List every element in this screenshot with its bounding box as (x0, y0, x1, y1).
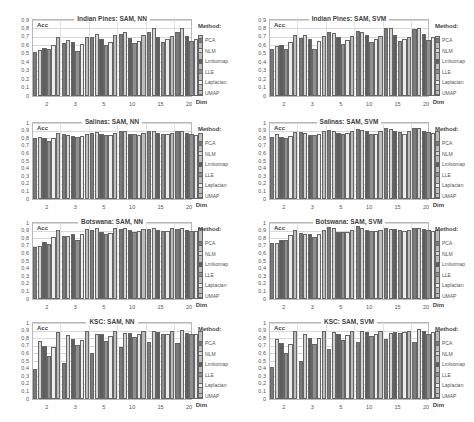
legend-swatch-icon (198, 372, 203, 377)
y-tick-label: 0,4 (3, 265, 29, 271)
legend-swatch-icon (198, 293, 203, 298)
legend-label: PCA (205, 240, 215, 246)
legend-label: UMAP (205, 293, 219, 299)
legend-label: Laplacian (442, 282, 463, 288)
legend: Method:PCANLMLmlsomapLLELaplacianUMAP (198, 23, 238, 98)
legend-label: NLM (442, 351, 453, 357)
bar-group: 3 (298, 123, 326, 199)
legend-label: UMAP (205, 90, 219, 96)
legend: Method:PCANLMLmlsomapLLELaplacianUMAP (435, 23, 474, 98)
legend: Method:PCANLMLmlsomapLLELaplacianUMAP (198, 126, 238, 201)
legend-item: Laplacian (198, 77, 238, 88)
legend-item: NLM (435, 249, 474, 260)
legend-label: NLM (442, 151, 453, 157)
y-tick-label: 0,6 (240, 150, 266, 156)
legend-item: PCA (198, 138, 238, 149)
x-tick-label: 15 (384, 304, 411, 310)
y-tick-label: 0,1 (240, 188, 266, 194)
legend-item: PCA (435, 338, 474, 349)
y-tick-label: 0,7 (3, 142, 29, 148)
y-tick-label: 0,8 (3, 335, 29, 341)
legend-label: Lmlsomap (205, 161, 228, 167)
y-tick-label: 0,4 (240, 265, 266, 271)
chart-title: Botswana: SAM, SVM (313, 218, 386, 225)
legend-label: UMAP (205, 393, 219, 399)
y-tick-label: 0,8 (3, 25, 29, 31)
x-tick-label: 15 (147, 304, 174, 310)
bar-group: 3 (298, 223, 326, 299)
plot-area: 00,10,20,30,40,50,60,70,80,91235101520Sa… (32, 122, 192, 200)
legend-item: NLM (198, 46, 238, 57)
chart-title-wrap: KSC: SAM, NN (33, 318, 191, 325)
legend-item: UMAP (435, 391, 474, 402)
bar-umap (378, 230, 382, 299)
y-tick-label: 0,3 (240, 373, 266, 379)
legend: Method:PCANLMLmlsomapLLELaplacianUMAP (198, 226, 238, 301)
legend-swatch-icon (435, 293, 440, 298)
y-tick-label: 0 (240, 93, 266, 99)
bar-group: 10 (118, 123, 146, 199)
legend-label: Lmlsomap (442, 58, 465, 64)
chart-title: KSC: SAM, NN (86, 318, 137, 325)
x-tick-label: 10 (118, 101, 145, 107)
y-tick-label: 0,6 (240, 350, 266, 356)
bar-umap (322, 331, 326, 399)
legend: Method:PCANLMLmlsomapLLELaplacianUMAP (435, 226, 474, 301)
legend-item: NLM (435, 349, 474, 360)
chart-title: KSC: SAM, SVM (321, 318, 377, 325)
y-tick-label: 0,9 (3, 127, 29, 133)
y-tick-label: 0,3 (3, 67, 29, 73)
legend-item: Lmlsomap (435, 359, 474, 370)
bar-group: 2 (270, 20, 298, 96)
y-tick-label: 0,4 (3, 165, 29, 171)
x-tick-label: 10 (355, 101, 382, 107)
bar-group: 3 (61, 223, 89, 299)
bar-groups: 235101520 (33, 223, 191, 299)
legend-label: UMAP (442, 293, 456, 299)
y-tick-label: 0,6 (3, 350, 29, 356)
y-tick-label: 0,5 (3, 358, 29, 364)
x-tick-label: 5 (327, 304, 354, 310)
legend-item: Lmlsomap (198, 259, 238, 270)
legend-swatch-icon (435, 262, 440, 267)
bar-umap (113, 133, 117, 199)
chart-title-wrap: Indian Pines: SAM, SVM (270, 15, 428, 22)
bar-umap (56, 230, 60, 299)
bar-umap (378, 36, 382, 96)
legend-label: UMAP (205, 193, 219, 199)
x-tick-label: 3 (298, 101, 325, 107)
bar-group: 5 (90, 323, 118, 399)
legend-label: LLE (442, 372, 451, 378)
legend-item: Lmlsomap (435, 159, 474, 170)
chart-title-wrap: Botswana: SAM, NN (33, 218, 191, 225)
chart-title: Salinas: SAM, NN (82, 118, 142, 125)
bar-group: 2 (33, 123, 61, 199)
bar-group: 5 (90, 123, 118, 199)
x-tick-label: 15 (384, 404, 411, 410)
bar-umap (378, 331, 382, 399)
legend-label: Lmlsomap (205, 261, 228, 267)
legend-item: LLE (198, 270, 238, 281)
bar-umap (350, 131, 354, 199)
bar-group: 10 (118, 20, 146, 96)
legend: Method:PCANLMLmlsomapLLELaplacianUMAP (435, 326, 474, 401)
y-tick-label: 0,1 (240, 288, 266, 294)
bar-umap (56, 133, 60, 199)
x-tick-label: 5 (90, 304, 117, 310)
bar-umap (322, 230, 326, 299)
legend-label: LLE (205, 272, 214, 278)
x-tick-label: 5 (327, 404, 354, 410)
legend-label: Lmlsomap (442, 361, 465, 367)
y-axis-label: Acc (36, 125, 49, 131)
bar-group: 15 (147, 323, 175, 399)
y-tick-label: 0,8 (240, 25, 266, 31)
legend-swatch-icon (198, 38, 203, 43)
legend-label: Lmlsomap (442, 161, 465, 167)
bar-groups: 235101520 (33, 323, 191, 399)
bar-group: 2 (270, 123, 298, 199)
legend-swatch-icon (435, 372, 440, 377)
x-axis-label: Dim (433, 302, 444, 308)
y-tick-label: 0,9 (240, 327, 266, 333)
legend-swatch-icon (198, 172, 203, 177)
plot-area: 00,10,20,30,40,50,60,70,80,91235101520Sa… (269, 122, 429, 200)
